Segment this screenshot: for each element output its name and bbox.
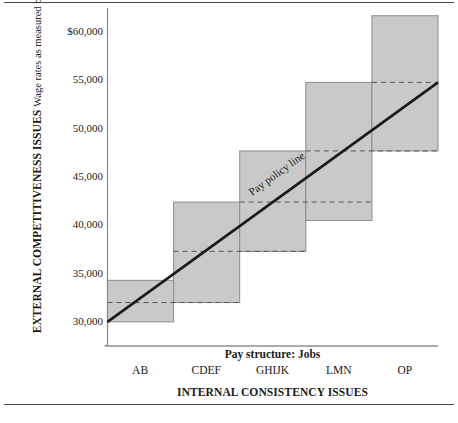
pay-structure-label: Pay structure: Jobs bbox=[107, 348, 438, 360]
x-category-label: OP bbox=[372, 364, 438, 376]
x-axis-category-labels: ABCDEFGHIJKLMNOP bbox=[107, 364, 438, 376]
x-category-label: LMN bbox=[306, 364, 372, 376]
x-category-label: AB bbox=[107, 364, 173, 376]
x-category-label: CDEF bbox=[173, 364, 239, 376]
range-box bbox=[174, 202, 240, 302]
x-axis-title: INTERNAL CONSISTENCY ISSUES bbox=[107, 386, 438, 398]
figure-container: EXTERNAL COMPETITIVENESS ISSUES Wage rat… bbox=[0, 0, 458, 423]
pay-policy-line bbox=[108, 82, 439, 321]
range-box bbox=[372, 16, 438, 151]
pay-policy-line-layer bbox=[108, 82, 439, 321]
x-category-label: GHIJK bbox=[239, 364, 305, 376]
